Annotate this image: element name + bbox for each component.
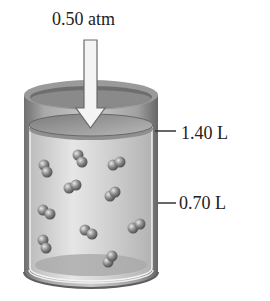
piston-cylinder-illustration — [0, 0, 270, 301]
volume-label-high: 1.40 L — [181, 124, 228, 142]
volume-label-low: 0.70 L — [179, 194, 226, 212]
pressure-label: 0.50 atm — [52, 10, 115, 28]
volume-tick-marks — [155, 131, 176, 203]
